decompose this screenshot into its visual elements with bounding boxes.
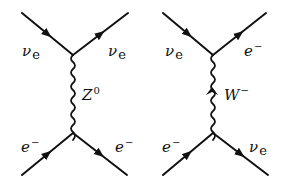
label-top-right-z0: νe: [108, 44, 126, 59]
diagram-lines: [0, 0, 294, 191]
label-boson-w: W−: [224, 88, 249, 103]
label-bottom-right-z0: e−: [115, 140, 133, 155]
label-bottom-right-w: νe: [249, 140, 267, 155]
label-bottom-left-w: e−: [162, 140, 180, 155]
w-direction-arrow-icon: [206, 87, 218, 95]
label-bottom-left-z0: e−: [21, 140, 39, 155]
boson-propagator-w: [211, 55, 215, 140]
label-top-left-z0: νe: [22, 44, 40, 59]
feynman-diagrams: νe νe Z0 e− e− νe e− W− e− νe: [0, 0, 294, 191]
label-top-left-w: νe: [165, 44, 183, 59]
label-boson-z0: Z0: [82, 88, 100, 103]
label-top-right-w: e−: [244, 44, 262, 59]
boson-propagator-z0: [71, 55, 75, 140]
